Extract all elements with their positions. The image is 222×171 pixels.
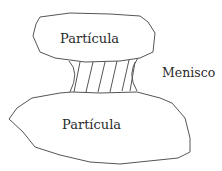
meniscus-hatching [74, 60, 135, 92]
particle-meniscus-diagram [0, 0, 222, 171]
meniscus-label: Menisco [162, 67, 215, 80]
top-particle-label: Partícula [60, 32, 119, 45]
meniscus-left-edge [69, 61, 75, 92]
bottom-particle-label: Partícula [62, 118, 121, 131]
